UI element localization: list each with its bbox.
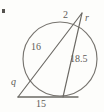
label-segment-q: q <box>11 77 16 87</box>
label-chord-left: 16 <box>31 42 41 52</box>
label-tangent-bottom: 15 <box>36 99 46 109</box>
label-chord-right: 18.5 <box>70 54 88 64</box>
label-segment-r: r <box>85 13 89 23</box>
label-external-top: 2 <box>63 10 68 20</box>
geometry-figure: 16 18.5 2 r q 15 <box>0 0 104 112</box>
